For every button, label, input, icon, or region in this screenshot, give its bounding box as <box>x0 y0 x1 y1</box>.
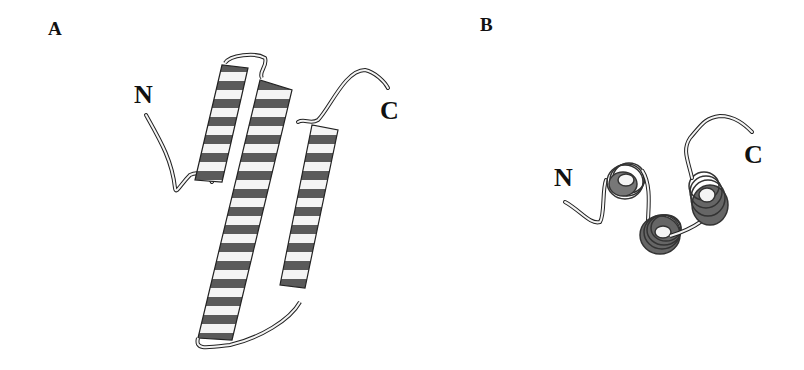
helix-3 <box>280 125 338 288</box>
helix-bundle-top-view <box>420 0 804 370</box>
helix-3-end-view <box>689 172 728 225</box>
helix-1-end-view <box>607 163 645 199</box>
helix-bundle-side-view <box>0 0 420 370</box>
panel-b: B N C <box>420 0 804 370</box>
panel-a: A N C <box>0 0 420 370</box>
